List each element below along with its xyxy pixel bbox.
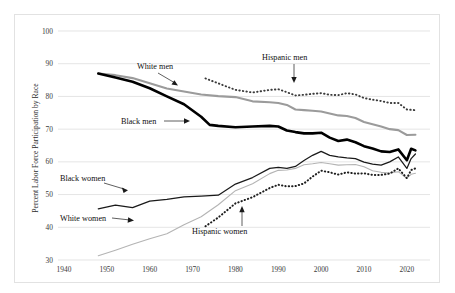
x-tick-label-1950: 1950 [99,265,114,274]
y-tick-label-100: 100 [42,27,53,36]
annotation-label-white-men: White men [137,62,173,71]
annotation-arrow-white-women [128,217,134,223]
x-tick-label-2010: 2010 [357,265,372,274]
annotation-leader-white-men [158,73,175,83]
annotation-arrow-hispanic-women [239,206,244,212]
annotation-label-hispanic-men: Hispanic men [262,53,307,62]
annotation-arrow-hispanic-men [291,77,296,83]
x-tick-label-1990: 1990 [271,265,286,274]
gridlines-group [58,31,430,260]
series-line-black-women [98,151,415,209]
x-tick-label-1980: 1980 [228,265,243,274]
annotation-label-black-women: Black women [60,174,105,183]
y-tick-label-90: 90 [46,59,54,68]
annotation-label-white-women: White women [60,214,106,223]
annotation-arrow-black-men [184,118,190,124]
y-tick-label-60: 60 [46,157,54,166]
x-axis-tick-labels: 194019501960197019801990200020102020 [57,265,415,274]
annotation-arrow-white-men [172,80,179,85]
annotation-label-black-men: Black men [121,117,156,126]
x-tick-label-1940: 1940 [57,265,72,274]
annotation-label-hispanic-women: Hispanic women [192,227,247,236]
series-line-white-women [98,163,415,256]
data-series-group [98,74,415,256]
labor-force-participation-line-chart: 10090807060504030 1940195019601970198019… [0,0,455,293]
y-axis-title: Percent Labor Force Participation by Rac… [31,83,40,213]
y-tick-label-80: 80 [46,92,54,101]
x-tick-label-2020: 2020 [399,265,414,274]
y-tick-label-30: 30 [46,256,54,265]
y-axis-tick-labels: 10090807060504030 [42,27,53,265]
series-line-hispanic-men [205,78,415,110]
x-tick-label-1960: 1960 [142,265,157,274]
annotation-leader-white-women [112,218,130,220]
x-tick-label-1970: 1970 [185,265,200,274]
y-tick-label-50: 50 [46,190,54,199]
x-tick-label-2000: 2000 [314,265,329,274]
annotation-arrow-black-women [122,188,128,193]
chart-container: 10090807060504030 1940195019601970198019… [0,0,455,293]
annotations-group: White men Black men Hispanic men Black w… [60,53,307,236]
annotation-leader-black-women [104,183,124,189]
series-line-hispanic-women [205,168,415,226]
y-tick-label-40: 40 [46,223,54,232]
y-tick-label-70: 70 [46,125,54,134]
